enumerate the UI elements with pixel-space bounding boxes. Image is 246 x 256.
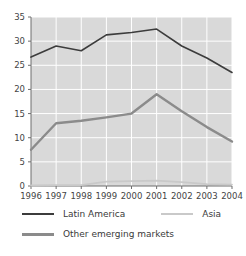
x-tick-label: 1998 [70, 191, 92, 200]
y-tick-label: 10 [14, 133, 25, 143]
y-tick-label: 15 [14, 109, 25, 119]
plot-area: 0510152025303519961997199819992000200120… [0, 0, 246, 200]
legend-label-other-emerging-markets: Other emerging markets [63, 230, 174, 239]
chart-legend: Latin America Asia Other emerging market… [0, 204, 246, 256]
legend-item-other-emerging-markets[interactable]: Other emerging markets [22, 230, 174, 239]
line-swatch-other-emerging-markets-icon [22, 233, 54, 236]
x-tick-label: 1997 [45, 191, 67, 200]
legend-item-asia[interactable]: Asia [161, 210, 221, 219]
plot-svg: 0510152025303519961997199819992000200120… [0, 0, 246, 200]
y-tick-label: 0 [20, 181, 25, 191]
line-swatch-asia-icon [161, 213, 193, 215]
x-tick-label: 2004 [221, 191, 243, 200]
legend-label-latin-america: Latin America [63, 210, 125, 219]
legend-item-latin-america[interactable]: Latin America [22, 210, 125, 219]
x-tick-label: 2001 [146, 191, 168, 200]
legend-label-asia: Asia [202, 210, 221, 219]
y-tick-label: 30 [14, 36, 25, 46]
x-tick-label: 2002 [171, 191, 193, 200]
y-tick-label: 25 [14, 60, 25, 70]
x-tick-label: 2000 [121, 191, 143, 200]
x-tick-label: 1999 [96, 191, 118, 200]
x-tick-label: 2003 [196, 191, 218, 200]
line-swatch-latin-america-icon [22, 213, 54, 215]
legend-row-1: Latin America Asia [0, 204, 246, 224]
line-chart: 0510152025303519961997199819992000200120… [0, 0, 246, 256]
y-tick-label: 35 [14, 12, 25, 22]
y-tick-label: 5 [20, 157, 25, 167]
x-tick-label: 1996 [20, 191, 42, 200]
y-tick-label: 20 [14, 84, 25, 94]
legend-row-2: Other emerging markets [0, 224, 246, 244]
